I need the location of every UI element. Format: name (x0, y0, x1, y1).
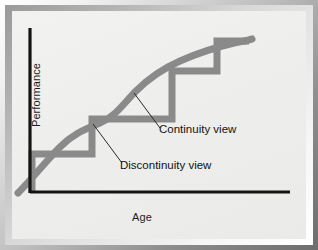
continuity-leader-line (134, 93, 160, 128)
discontinuity-view-annotation: Discontinuity view (120, 159, 211, 171)
plot-surface: Performance Age Continuity view Disconti… (12, 11, 306, 239)
x-axis-label: Age (132, 211, 152, 223)
y-axis-label: Performance (30, 53, 42, 137)
discontinuity-leader-line (93, 124, 122, 163)
continuity-view-annotation: Continuity view (159, 123, 236, 135)
figure-screenshot: Performance Age Continuity view Disconti… (0, 0, 318, 250)
